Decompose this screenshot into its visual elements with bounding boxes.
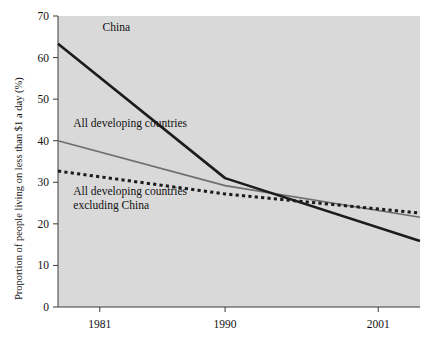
y-tick-label: 0 — [43, 301, 49, 313]
y-tick-label: 50 — [38, 93, 50, 105]
chart-container: 010203040506070 198119902001 Proportion … — [0, 0, 435, 342]
x-axis-ticks: 198119902001 — [88, 307, 390, 330]
y-tick-label: 60 — [38, 52, 50, 64]
y-tick-label: 10 — [38, 259, 50, 271]
annotation-excluding-china-line2: excluding China — [73, 199, 149, 212]
y-tick-label: 40 — [38, 135, 50, 147]
annotation-excluding-china-line1: All developing countries — [73, 185, 187, 198]
y-axis-ticks: 010203040506070 — [38, 10, 59, 313]
x-tick-label: 1981 — [88, 318, 111, 330]
x-tick-label: 1990 — [214, 318, 237, 330]
plot-background — [58, 16, 420, 307]
poverty-line-chart: 010203040506070 198119902001 Proportion … — [0, 0, 435, 342]
y-axis-title: Proportion of people living on less than… — [13, 77, 25, 300]
y-tick-label: 30 — [38, 176, 50, 188]
x-tick-label: 2001 — [367, 318, 390, 330]
y-tick-label: 70 — [38, 10, 50, 22]
annotation-china: China — [103, 21, 130, 33]
annotation-all-developing-countries: All developing countries — [73, 117, 187, 130]
y-tick-label: 20 — [38, 218, 50, 230]
